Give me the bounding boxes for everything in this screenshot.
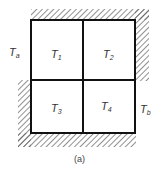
t4-symbol: T xyxy=(101,100,108,112)
tb-subscript: b xyxy=(147,109,151,116)
label-t3: T3 xyxy=(51,103,62,115)
label-ta: Ta xyxy=(9,47,20,59)
t3-symbol: T xyxy=(51,102,58,114)
top-insulation xyxy=(31,9,149,20)
t1-symbol: T xyxy=(51,48,58,60)
label-tb: Tb xyxy=(140,104,151,116)
bottom-insulation xyxy=(18,133,136,147)
tb-symbol: T xyxy=(140,103,147,115)
label-t2: T2 xyxy=(103,49,114,61)
right-upper-insulation xyxy=(135,9,149,81)
t1-subscript: 1 xyxy=(58,54,62,61)
ta-subscript: a xyxy=(16,52,20,59)
figure-caption: (a) xyxy=(74,155,85,164)
t3-subscript: 3 xyxy=(58,108,62,115)
ta-symbol: T xyxy=(9,46,16,58)
grid-diagram xyxy=(0,0,160,174)
label-t4: T4 xyxy=(101,101,112,113)
t2-symbol: T xyxy=(103,48,110,60)
label-t1: T1 xyxy=(51,49,62,61)
t2-subscript: 2 xyxy=(110,54,114,61)
t4-subscript: 4 xyxy=(108,106,112,113)
